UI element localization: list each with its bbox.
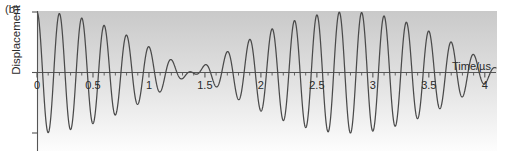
y-axis-label: Displacement xyxy=(10,0,22,92)
x-tick-label: 0.5 xyxy=(85,79,100,91)
x-tick-label: 0 xyxy=(34,79,40,91)
x-tick-label: 2 xyxy=(258,79,264,91)
x-tick-label: 4 xyxy=(482,79,488,91)
x-tick-label: 1.5 xyxy=(197,79,212,91)
y-axis-ticks xyxy=(32,12,37,133)
x-tick-label: 3.5 xyxy=(421,79,436,91)
waveform-plot xyxy=(0,0,511,154)
x-axis-label: Time/µs xyxy=(452,60,491,72)
x-tick-label: 1 xyxy=(146,79,152,91)
x-tick-label: 2.5 xyxy=(309,79,324,91)
figure-panel-b: (b) Displacement Time/µs 00.511.522. xyxy=(0,0,511,154)
x-tick-label: 3 xyxy=(370,79,376,91)
